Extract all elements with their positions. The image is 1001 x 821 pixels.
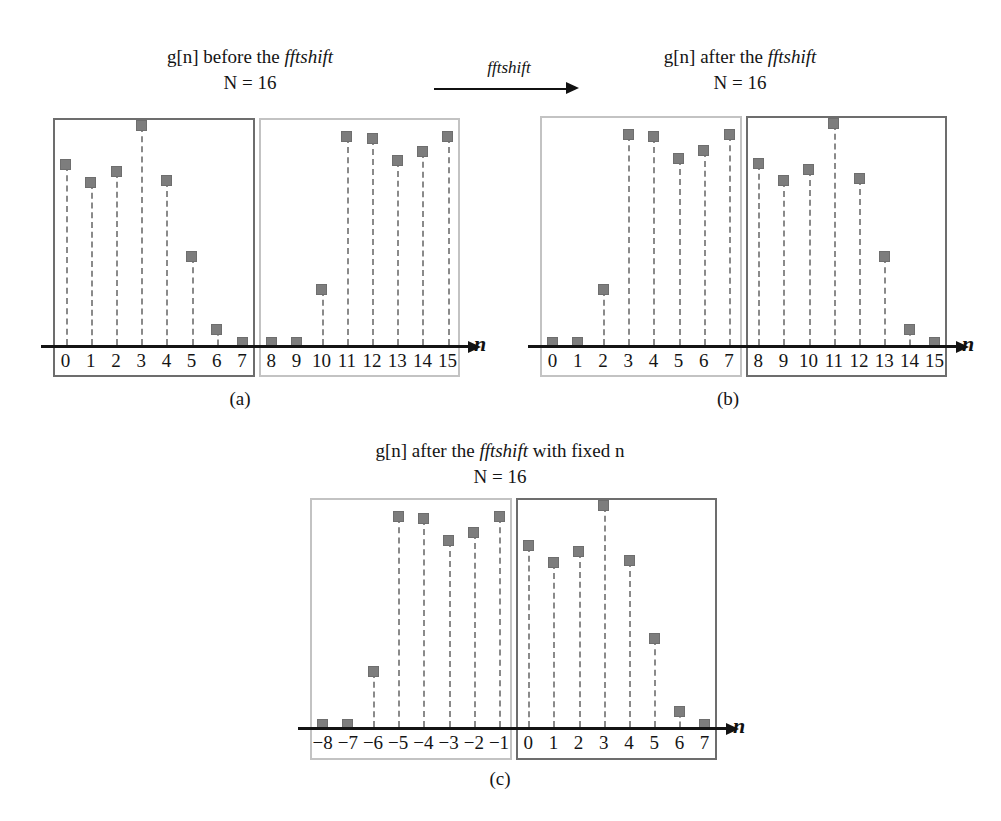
data-point-c-5 xyxy=(443,535,454,546)
stem-c-3 xyxy=(398,517,400,727)
data-point-c-13 xyxy=(649,633,660,644)
axis-label-n-c: n xyxy=(733,713,745,739)
data-point-c-4 xyxy=(418,513,429,524)
stem-c-12 xyxy=(629,561,631,727)
stem-c-13 xyxy=(654,639,656,727)
x-tick-label-c-7: −1 xyxy=(483,732,515,754)
figure-root: g[n] before the fftshift N = 16 n0123456… xyxy=(0,0,1001,821)
data-point-c-6 xyxy=(468,527,479,538)
data-point-c-3 xyxy=(393,511,404,522)
data-point-c-12 xyxy=(624,555,635,566)
panel-box-c-left xyxy=(310,498,512,760)
data-point-c-7 xyxy=(494,511,505,522)
stem-c-5 xyxy=(449,541,451,727)
stem-c-7 xyxy=(499,517,501,727)
axis-line-c xyxy=(298,727,726,730)
data-point-c-10 xyxy=(573,546,584,557)
caption-c: (c) xyxy=(460,768,540,790)
stem-c-6 xyxy=(474,533,476,727)
stem-c-2 xyxy=(373,672,375,727)
stem-c-9 xyxy=(553,563,555,727)
stem-c-11 xyxy=(604,506,606,727)
data-point-c-14 xyxy=(674,706,685,717)
data-point-c-11 xyxy=(598,500,609,511)
x-tick-label-c-15: 7 xyxy=(689,732,721,754)
plot-c: n−8−7−6−5−4−3−2−101234567 xyxy=(0,0,1001,821)
data-point-c-9 xyxy=(548,557,559,568)
stem-c-4 xyxy=(423,519,425,727)
panel-box-c-right xyxy=(516,498,718,760)
stem-c-8 xyxy=(528,546,530,727)
data-point-c-2 xyxy=(368,666,379,677)
stem-c-10 xyxy=(579,552,581,727)
data-point-c-8 xyxy=(523,540,534,551)
